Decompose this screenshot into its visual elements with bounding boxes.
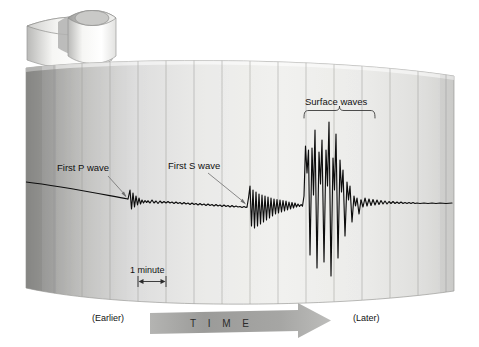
drum-and-trace-canvas xyxy=(0,0,479,347)
seismogram-figure: First P wave First S wave Surface waves … xyxy=(0,0,479,347)
label-later: (Later) xyxy=(353,313,380,323)
label-earlier: (Earlier) xyxy=(92,313,124,323)
paper-roll xyxy=(27,11,116,70)
label-time-axis: T I M E xyxy=(190,318,254,329)
label-scale-bar: 1 minute xyxy=(130,265,165,275)
label-first-s-wave: First S wave xyxy=(168,160,220,171)
label-first-p-wave: First P wave xyxy=(57,162,109,173)
label-surface-waves: Surface waves xyxy=(305,96,367,107)
